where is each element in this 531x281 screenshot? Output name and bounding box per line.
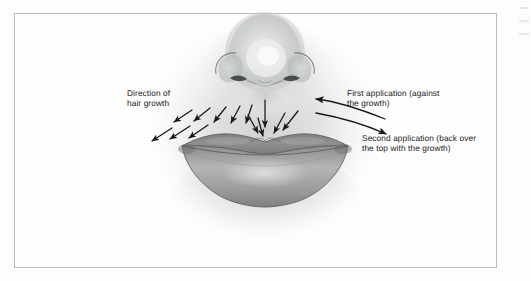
nose bbox=[216, 12, 315, 92]
label-first-application: First application (against the growth) bbox=[347, 88, 440, 108]
label-direction-of-hair-growth: Direction of hair growth bbox=[127, 88, 170, 108]
label-second-application: Second application (back over the top wi… bbox=[362, 133, 476, 153]
figure-canvas: Direction of hair growth First applicati… bbox=[0, 0, 531, 281]
